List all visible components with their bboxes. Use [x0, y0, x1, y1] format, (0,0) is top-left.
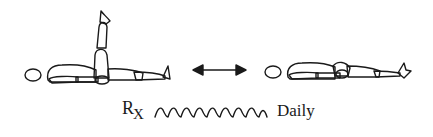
prescription-caption: R X Daily: [0, 0, 433, 137]
frequency-label: Daily: [277, 101, 315, 121]
rx-x: X: [133, 106, 144, 123]
